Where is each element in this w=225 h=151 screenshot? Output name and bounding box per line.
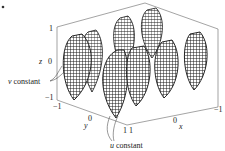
- u-constant-leader-2: [113, 116, 118, 141]
- surface-mesh: [63, 8, 207, 118]
- z-axis-label: z: [38, 57, 43, 66]
- annotation-u-text: constant: [114, 141, 143, 150]
- y-tick-mid: 0: [88, 114, 92, 123]
- surface-lobe-front-5: [184, 32, 207, 90]
- svg-text:u constant: u constant: [110, 141, 143, 150]
- x-tick-left: 1: [129, 126, 133, 135]
- z-tick-mid: 0: [48, 57, 52, 66]
- x-axis-label: x: [178, 122, 183, 131]
- surface-plot-figure: 1 z 0 −1 −1 0 y 1 1 0 x −1 v constant u …: [0, 0, 225, 151]
- annotation-v-constant: v constant: [8, 66, 64, 86]
- figure-marker: [2, 6, 5, 9]
- u-constant-leader: [107, 116, 112, 141]
- z-tick-top: 1: [49, 24, 53, 33]
- x-tick-right: −1: [214, 105, 223, 114]
- svg-text:v constant: v constant: [8, 77, 41, 86]
- surface-lobe-front-3: [126, 46, 150, 106]
- x-tick-mid: 0: [173, 116, 177, 125]
- surface-lobe-front-2: [103, 50, 128, 118]
- surface-lobe-front-1: [63, 34, 91, 100]
- surface-lobe-front-4: [155, 40, 178, 98]
- y-tick-right: 1: [123, 126, 127, 135]
- annotation-v-text: constant: [12, 77, 41, 86]
- z-tick-bottom: −1: [45, 93, 54, 102]
- y-axis-label: y: [83, 121, 88, 130]
- y-tick-left: −1: [53, 102, 62, 111]
